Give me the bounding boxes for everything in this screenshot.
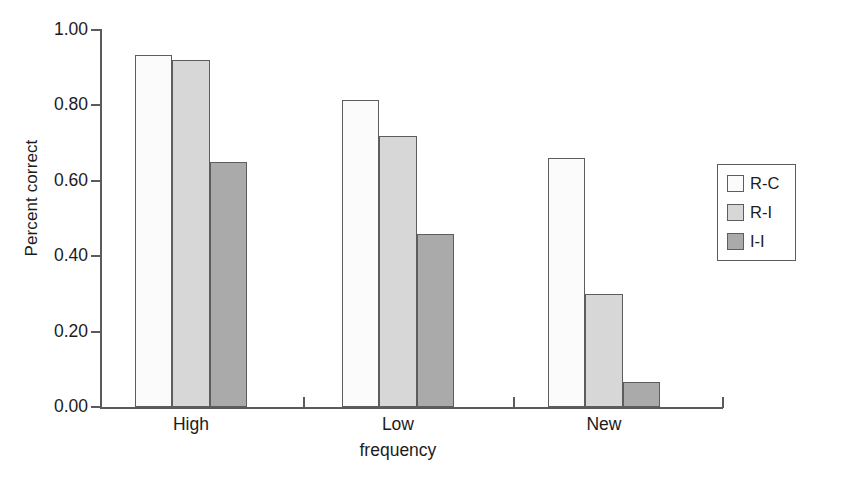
legend-label-i-i: I-I bbox=[750, 233, 765, 250]
x-axis-line bbox=[100, 407, 723, 409]
bar-new-i-i bbox=[623, 382, 660, 407]
y-tick-mark bbox=[91, 104, 100, 106]
y-tick-label: 0.80 bbox=[22, 96, 88, 114]
y-tick-label: 0.20 bbox=[22, 323, 88, 341]
y-tick-mark bbox=[91, 406, 100, 408]
legend-item-i-i: I-I bbox=[727, 233, 765, 250]
y-tick-label: 1.00 bbox=[22, 21, 88, 39]
legend-swatch-r-i bbox=[727, 204, 744, 221]
y-tick-label: 0.00 bbox=[22, 398, 88, 416]
legend-label-r-i: R-I bbox=[750, 204, 772, 221]
bar-low-i-i bbox=[417, 234, 454, 407]
bar-high-r-c bbox=[135, 55, 172, 407]
legend-swatch-r-c bbox=[727, 175, 744, 192]
y-tick-mark bbox=[91, 255, 100, 257]
legend-item-r-c: R-C bbox=[727, 175, 779, 192]
bar-high-r-i bbox=[172, 60, 209, 407]
y-axis-line bbox=[100, 29, 102, 408]
bar-new-r-c bbox=[548, 158, 585, 407]
legend-item-r-i: R-I bbox=[727, 204, 772, 221]
x-tick-mark bbox=[303, 397, 305, 408]
x-axis-title: frequency bbox=[298, 440, 498, 461]
chart-legend: R-C R-I I-I bbox=[717, 164, 796, 261]
y-tick-mark bbox=[91, 331, 100, 333]
x-tick-mark bbox=[722, 397, 724, 408]
y-tick-mark bbox=[91, 29, 100, 31]
y-tick-label: 0.60 bbox=[22, 172, 88, 190]
x-category-label-high: High bbox=[111, 414, 271, 435]
y-tick-mark bbox=[91, 180, 100, 182]
legend-label-r-c: R-C bbox=[750, 175, 779, 192]
bar-low-r-i bbox=[379, 136, 416, 407]
y-tick-label: 0.40 bbox=[22, 247, 88, 265]
bar-low-r-c bbox=[342, 100, 379, 407]
x-category-label-new: New bbox=[524, 414, 684, 435]
bar-high-i-i bbox=[210, 162, 247, 407]
bar-chart: Percent correct 1.000.800.600.400.200.00… bbox=[0, 0, 841, 480]
x-category-label-low: Low bbox=[318, 414, 478, 435]
legend-swatch-i-i bbox=[727, 233, 744, 250]
bar-new-r-i bbox=[585, 294, 622, 407]
x-tick-mark bbox=[513, 397, 515, 408]
